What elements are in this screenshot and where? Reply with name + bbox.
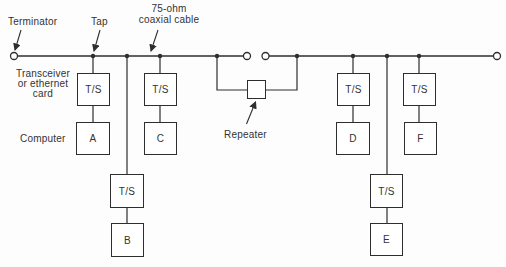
repeater-box xyxy=(247,80,266,99)
terminator-label: Terminator xyxy=(8,16,57,27)
computer-box-c-label: C xyxy=(157,133,165,144)
terminator-circle-right xyxy=(494,53,501,60)
ts-box-a-label: T/S xyxy=(85,84,101,95)
terminator-arrow xyxy=(15,30,21,50)
cable-end-circle-mid-left xyxy=(244,53,251,60)
ts-box-f-label: T/S xyxy=(411,84,427,95)
computer-box-e-label: E xyxy=(383,234,390,245)
tap-arrow xyxy=(94,30,100,51)
ts-box-b-label: T/S xyxy=(119,186,135,197)
computer-box-d-label: D xyxy=(349,133,357,144)
ts-box-c: T/S xyxy=(144,73,177,106)
computer-box-d: D xyxy=(336,122,370,155)
transceiver-label: Transceiver or ethernet card xyxy=(8,69,78,99)
repeater-link-right xyxy=(266,56,297,90)
computer-label: Computer xyxy=(20,133,66,144)
computer-box-f: F xyxy=(404,122,437,155)
ts-box-e-label: T/S xyxy=(378,186,394,197)
ts-box-d: T/S xyxy=(337,73,370,106)
ts-box-a: T/S xyxy=(77,73,110,106)
repeater-link-left xyxy=(217,56,247,90)
computer-box-c: C xyxy=(144,122,177,155)
ts-box-e: T/S xyxy=(370,174,403,208)
tap-label: Tap xyxy=(91,16,108,27)
repeater-arrow xyxy=(247,102,256,124)
computer-box-e: E xyxy=(370,223,403,256)
terminator-circle-left xyxy=(11,53,18,60)
coaxial-cable-label: 75-ohm coaxial cable xyxy=(134,3,204,25)
repeater-label: Repeater xyxy=(224,129,267,140)
computer-box-a-label: A xyxy=(90,133,97,144)
computer-box-b-label: B xyxy=(124,235,131,246)
ts-box-b: T/S xyxy=(110,174,144,208)
ts-box-f: T/S xyxy=(403,73,436,106)
ts-box-d-label: T/S xyxy=(345,84,361,95)
cable-arrow xyxy=(151,30,158,51)
ts-box-c-label: T/S xyxy=(152,84,168,95)
computer-box-b: B xyxy=(111,223,144,257)
bus-network-diagram: Terminator Tap 75-ohm coaxial cable Tran… xyxy=(0,0,506,267)
computer-box-f-label: F xyxy=(417,133,423,144)
computer-box-a: A xyxy=(76,122,110,155)
cable-end-circle-mid-right xyxy=(262,53,269,60)
